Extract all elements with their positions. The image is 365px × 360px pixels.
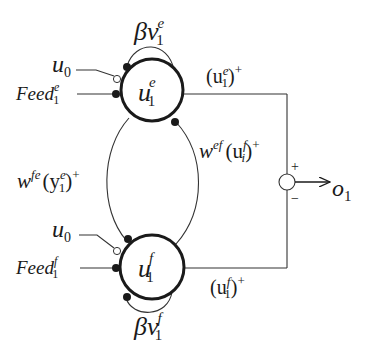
feed-synapse-f — [112, 264, 120, 272]
inhibition-arc-fe — [107, 118, 129, 240]
bias-synapse-f — [113, 247, 120, 254]
output-label-e: (ue1)+ — [206, 62, 242, 90]
bias-wire-e — [76, 70, 114, 76]
output-label-f: (uf1)+ — [210, 273, 245, 301]
bias-synapse-e — [113, 75, 120, 82]
neuron-extensor: ue1 βve1 u0 Feede1 (ue1)+ — [15, 15, 242, 126]
self-inhibition-label-f: βvf1 — [133, 310, 164, 343]
summation-node — [279, 174, 295, 190]
self-inhibition-synapse-e — [123, 63, 131, 71]
inhibition-arc-ef — [176, 122, 199, 244]
cpg-diagram: + − o1 ue1 βve1 u0 Feede1 (ue1)+ — [0, 0, 365, 360]
inhibition-synapse-on-e — [171, 118, 179, 126]
neuron-flexor: uf1 βvf1 u0 Feedf1 (uf1)+ — [15, 216, 245, 343]
plus-sign: + — [291, 159, 299, 174]
inhibition-label-ef: wef(ufi)+ — [199, 137, 260, 165]
feed-label-f: Feedf1 — [15, 254, 59, 281]
self-inhibition-synapse-f — [123, 293, 131, 301]
inhibition-label-fe: wfe(ye1)+ — [17, 167, 80, 195]
minus-sign: − — [291, 191, 299, 206]
feed-synapse-e — [112, 90, 120, 98]
inhibition-synapse-on-f — [124, 235, 132, 243]
bias-label-f: u0 — [52, 216, 71, 245]
output-o1-label: o1 — [332, 175, 352, 204]
feed-label-e: Feede1 — [15, 80, 60, 107]
bias-label-e: u0 — [52, 51, 71, 80]
neuron-body-f — [120, 235, 184, 299]
self-inhibition-label-e: βve1 — [133, 15, 165, 48]
bias-wire-f — [79, 235, 114, 248]
